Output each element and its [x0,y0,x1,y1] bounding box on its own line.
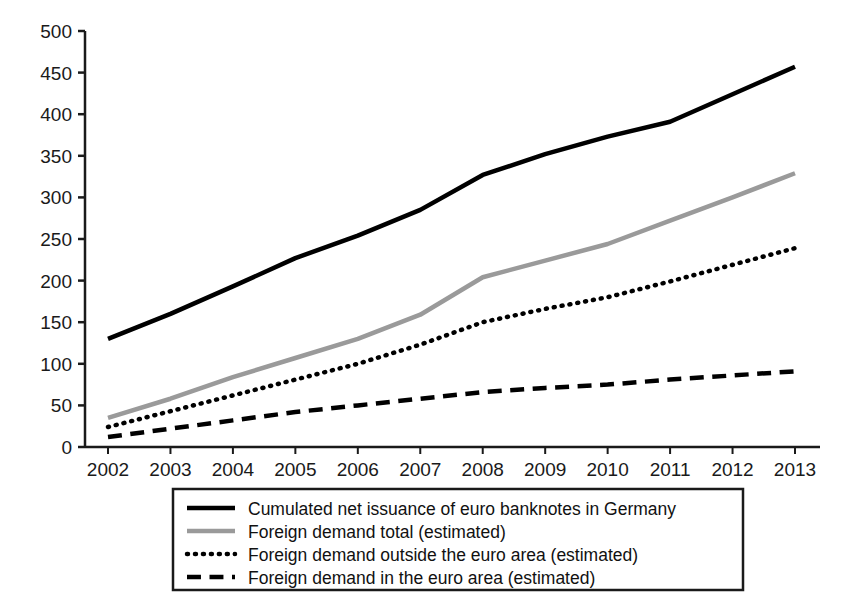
x-axis-tick-label: 2010 [586,459,628,480]
y-axis-tick-label: 0 [61,437,72,458]
legend-label-2: Foreign demand outside the euro area (es… [248,545,638,565]
y-axis-tick-label: 300 [40,187,72,208]
legend-label-3: Foreign demand in the euro area (estimat… [248,568,595,588]
series-lines [108,67,795,437]
chart-canvas: 050100150200250300350400450500 200220032… [0,0,847,602]
series-line-2 [108,248,795,427]
x-axis-tick-label: 2003 [149,459,191,480]
x-axis-tick-label: 2005 [274,459,316,480]
legend-label-1: Foreign demand total (estimated) [248,522,506,542]
y-axis-tick-label: 250 [40,229,72,250]
y-axis-tick-label: 150 [40,312,72,333]
x-axis-tick-label: 2006 [337,459,379,480]
x-axis-tick-label: 2004 [212,459,255,480]
y-axis-tick-label: 450 [40,63,72,84]
y-axis-tick-label: 50 [51,395,72,416]
line-chart: 050100150200250300350400450500 200220032… [0,0,847,602]
x-axis-tick-label: 2008 [462,459,504,480]
y-axis-tick-label: 200 [40,271,72,292]
x-axis-tick-label: 2009 [524,459,566,480]
x-axis-tick-label: 2011 [650,459,691,480]
y-axis-tick-label: 400 [40,104,72,125]
y-axis: 050100150200250300350400450500 [40,21,85,458]
y-axis-tick-label: 100 [40,354,72,375]
x-axis-tick-label: 2013 [774,459,816,480]
legend-label-0: Cumulated net issuance of euro banknotes… [248,499,676,519]
y-axis-tick-label: 500 [40,21,72,42]
y-axis-tick-label: 350 [40,146,72,167]
x-axis: 2002200320042005200620072008200920102011… [85,447,820,480]
series-line-3 [108,371,795,437]
x-axis-tick-label: 2012 [711,459,753,480]
chart-legend: Cumulated net issuance of euro banknotes… [173,489,743,590]
x-axis-tick-label: 2007 [399,459,441,480]
x-axis-tick-label: 2002 [87,459,129,480]
